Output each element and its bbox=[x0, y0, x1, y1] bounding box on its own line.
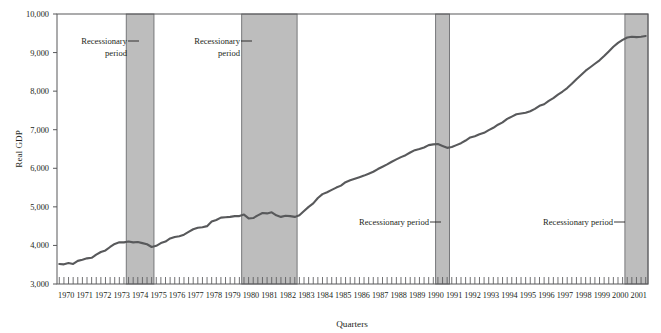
chart-figure: 10,0009,0008,0007,0006,0005,0004,0003,00… bbox=[0, 0, 661, 333]
y-axis-ticks-group: 10,0009,0008,0007,0006,0005,0004,0003,00… bbox=[26, 10, 57, 289]
x-axis-year-label-2000: 2000 bbox=[612, 291, 628, 300]
recession-band-3 bbox=[436, 14, 450, 284]
x-axis-year-label-1987: 1987 bbox=[372, 291, 388, 300]
x-axis-year-label-1975: 1975 bbox=[150, 291, 166, 300]
y-axis-tick-label: 4,000 bbox=[30, 241, 49, 250]
recession-band-4 bbox=[625, 14, 648, 284]
y-axis-tick-label: 6,000 bbox=[30, 164, 49, 173]
x-axis-year-label-1972: 1972 bbox=[95, 291, 111, 300]
x-axis-year-label-1992: 1992 bbox=[464, 291, 480, 300]
annotation-band-2-line-2: period bbox=[218, 48, 241, 58]
x-axis-year-label-1996: 1996 bbox=[538, 291, 554, 300]
y-axis-tick-label: 9,000 bbox=[30, 49, 49, 58]
x-axis-year-label-1983: 1983 bbox=[298, 291, 314, 300]
annotation-band-1-line-1: Recessionary bbox=[81, 36, 128, 46]
x-axis-year-label-1984: 1984 bbox=[317, 291, 333, 300]
recession-bands-group bbox=[126, 14, 648, 284]
x-axis-year-label-1982: 1982 bbox=[280, 291, 296, 300]
x-axis-year-label-1989: 1989 bbox=[409, 291, 425, 300]
y-axis-tick-label: 5,000 bbox=[30, 203, 49, 212]
x-axis-year-label-1974: 1974 bbox=[132, 291, 148, 300]
x-axis-year-label-1979: 1979 bbox=[224, 291, 240, 300]
x-axis-year-label-1978: 1978 bbox=[206, 291, 222, 300]
x-axis-year-label-1998: 1998 bbox=[575, 291, 591, 300]
x-axis-year-label-1990: 1990 bbox=[427, 291, 443, 300]
x-axis-year-label-1991: 1991 bbox=[446, 291, 462, 300]
x-axis-year-label-1986: 1986 bbox=[354, 291, 370, 300]
x-axis-quarter-ticks-group bbox=[59, 277, 645, 284]
x-axis-year-label-1976: 1976 bbox=[169, 291, 185, 300]
y-axis-tick-label: 7,000 bbox=[30, 126, 49, 135]
x-axis-year-labels-group: 1970197119721973197419751976197719781979… bbox=[58, 291, 647, 300]
x-axis-year-label-1970: 1970 bbox=[58, 291, 74, 300]
x-axis-year-label-2001: 2001 bbox=[631, 291, 647, 300]
annotation-band-2-line-1: Recessionary bbox=[194, 36, 241, 46]
recession-annotations-group: Recessionary period Recessionary period … bbox=[81, 36, 625, 227]
x-axis-year-label-1995: 1995 bbox=[520, 291, 536, 300]
annotation-band-1-line-2: period bbox=[105, 48, 128, 58]
annotation-band-4: Recessionary period bbox=[543, 217, 625, 227]
recession-band-2 bbox=[242, 14, 297, 284]
x-axis-year-label-1993: 1993 bbox=[483, 291, 499, 300]
x-axis-year-label-1997: 1997 bbox=[557, 291, 573, 300]
x-axis-year-label-1977: 1977 bbox=[187, 291, 203, 300]
real-gdp-line-chart: 10,0009,0008,0007,0006,0005,0004,0003,00… bbox=[0, 0, 661, 333]
x-axis-year-label-1971: 1971 bbox=[77, 291, 93, 300]
x-axis-title: Quarters bbox=[336, 319, 368, 329]
y-axis-title: Real GDP bbox=[14, 130, 24, 168]
x-axis-year-label-1988: 1988 bbox=[390, 291, 406, 300]
y-axis-tick-label: 10,000 bbox=[26, 10, 49, 19]
annotation-band-4-label: Recessionary period bbox=[543, 217, 614, 227]
x-axis-year-label-1999: 1999 bbox=[594, 291, 610, 300]
x-axis-year-label-1985: 1985 bbox=[335, 291, 351, 300]
x-axis-year-label-1980: 1980 bbox=[243, 291, 259, 300]
x-axis-year-label-1973: 1973 bbox=[113, 291, 129, 300]
y-axis-tick-label: 8,000 bbox=[30, 87, 49, 96]
x-axis-year-label-1981: 1981 bbox=[261, 291, 277, 300]
annotation-band-3: Recessionary period bbox=[359, 217, 441, 227]
annotation-band-3-label: Recessionary period bbox=[359, 217, 430, 227]
x-axis-year-label-1994: 1994 bbox=[501, 291, 517, 300]
y-axis-tick-label: 3,000 bbox=[30, 280, 49, 289]
